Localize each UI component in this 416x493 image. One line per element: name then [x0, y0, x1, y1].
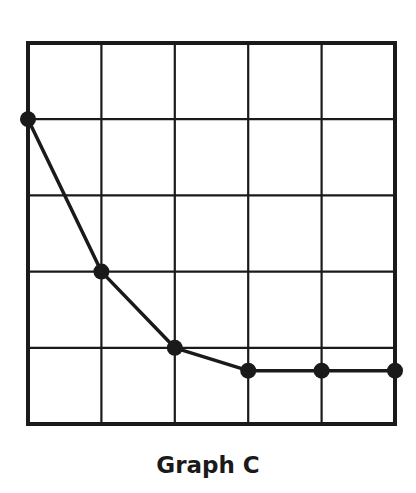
data-line	[28, 119, 395, 370]
data-point-marker	[20, 111, 36, 127]
data-point-marker	[93, 264, 109, 280]
data-point-marker	[387, 363, 403, 379]
data-point-marker	[240, 363, 256, 379]
data-point-marker	[167, 340, 183, 356]
chart-title: Graph C	[0, 452, 416, 478]
data-markers	[20, 111, 403, 378]
line-chart	[0, 0, 416, 440]
data-point-marker	[314, 363, 330, 379]
